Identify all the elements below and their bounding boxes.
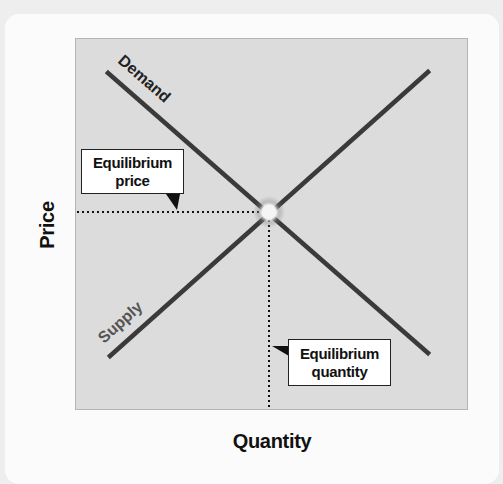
eq-qty-pointer	[272, 346, 289, 356]
eq-qty-line2: quantity	[289, 363, 390, 381]
equilibrium-price-callout: Equilibrium price	[81, 149, 184, 194]
eq-price-line1: Equilibrium	[82, 154, 183, 172]
eq-price-line2: price	[82, 172, 183, 190]
eq-price-pointer	[166, 194, 180, 210]
demand-label: Demand	[115, 51, 174, 105]
y-axis-label: Price	[36, 201, 59, 248]
eq-qty-line1: Equilibrium	[289, 345, 390, 363]
supply-label: Supply	[95, 298, 146, 346]
equilibrium-quantity-callout: Equilibrium quantity	[288, 339, 391, 386]
x-axis-label: Quantity	[233, 430, 312, 453]
